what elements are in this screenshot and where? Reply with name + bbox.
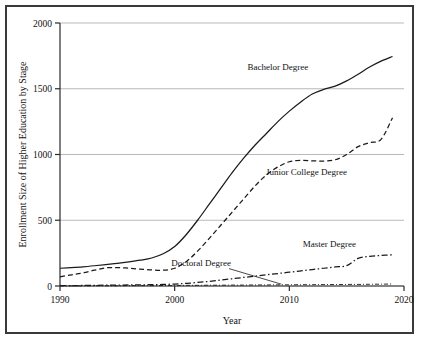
y-tick-label: 1500 — [33, 84, 52, 94]
x-axis-title: Year — [223, 315, 242, 326]
y-tick-labels: 0500100015002000 — [33, 19, 52, 292]
x-tick-label: 2000 — [165, 295, 184, 305]
series-label: Doctoral Degree — [171, 258, 231, 268]
series-leader-line — [229, 269, 281, 285]
axis-ticks-group — [55, 23, 404, 291]
series-label: Junior College Degree — [266, 167, 347, 177]
series-labels-group: Bachelor DegreeJunior College DegreeMast… — [171, 62, 356, 284]
y-axis-title: Enrollment Size of Higher Education by S… — [17, 61, 28, 248]
series-label: Master Degree — [303, 239, 356, 249]
series-line — [60, 118, 393, 277]
y-tick-label: 0 — [47, 282, 52, 292]
x-tick-labels: 1990200020102020 — [51, 295, 414, 305]
chart-page: 0500100015002000 1990200020102020 Bachel… — [0, 0, 421, 341]
series-label: Bachelor Degree — [248, 62, 309, 72]
x-tick-label: 1990 — [51, 295, 70, 305]
x-tick-label: 2020 — [395, 295, 414, 305]
x-tick-label: 2010 — [280, 295, 299, 305]
y-tick-label: 500 — [38, 216, 53, 226]
y-tick-label: 2000 — [33, 19, 52, 29]
line-chart: 0500100015002000 1990200020102020 Bachel… — [0, 0, 421, 341]
y-tick-label: 1000 — [33, 150, 52, 160]
